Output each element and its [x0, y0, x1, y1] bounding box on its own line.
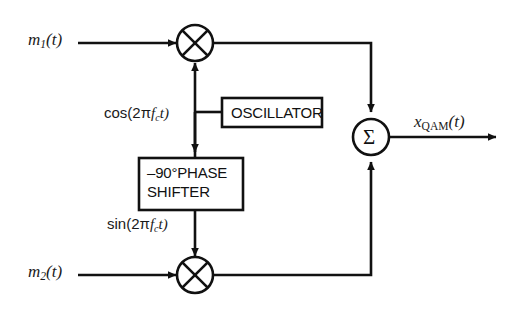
oscillator-label: OSCILLATOR: [231, 104, 317, 123]
carrier-sin-suffix: t): [159, 216, 168, 232]
input-label-m2-tail: (t): [46, 262, 62, 281]
carrier-sin-prefix: sin(2π: [107, 215, 150, 232]
input-label-m1: m1(t): [28, 30, 62, 52]
output-label-base: x: [414, 112, 422, 131]
wire-upper-branch-to-summer: [213, 43, 371, 112]
carrier-cos-prefix: cos(2π: [104, 104, 151, 121]
input-label-m2-base: m: [28, 262, 40, 281]
carrier-cos-suffix: t): [160, 105, 169, 121]
output-label-tail: (t): [449, 112, 465, 131]
phase-shifter-label-line2: SHIFTER: [147, 183, 239, 202]
input-label-m1-base: m: [28, 30, 40, 49]
carrier-label-sine: sin(2πfct): [107, 215, 168, 235]
input-label-m2: m2(t): [28, 262, 62, 284]
carrier-label-cosine: cos(2πfct): [104, 104, 169, 124]
summer-symbol: Σ: [363, 125, 375, 150]
output-label-xqam: xQAM(t): [414, 112, 465, 134]
output-label-sub: QAM: [422, 120, 449, 133]
input-label-m1-tail: (t): [46, 30, 62, 49]
phase-shifter-label: –90°PHASE SHIFTER: [147, 164, 239, 202]
phase-shifter-label-line1: –90°PHASE: [147, 164, 239, 183]
wiring-layer: [0, 0, 522, 313]
qam-modulator-diagram: m1(t) m2(t) cos(2πfct) sin(2πfct) OSCILL…: [0, 0, 522, 313]
